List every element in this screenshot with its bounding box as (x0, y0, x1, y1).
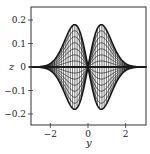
y-tick-label: 0 (20, 62, 26, 72)
plot-curves (30, 25, 147, 110)
x-axis-label: y (85, 137, 92, 148)
x-tick-label: 2 (123, 129, 129, 139)
y-tick-label: 0.1 (12, 39, 26, 49)
y-tick-label: −0.1 (4, 86, 26, 96)
y-axis-label: z (8, 61, 15, 72)
x-tick-label: −2 (44, 129, 57, 139)
chart: −0.2−0.100.10.2 −202 z y (0, 0, 150, 154)
y-tick-label: 0.2 (12, 15, 26, 25)
y-tick-label: −0.2 (4, 109, 26, 119)
